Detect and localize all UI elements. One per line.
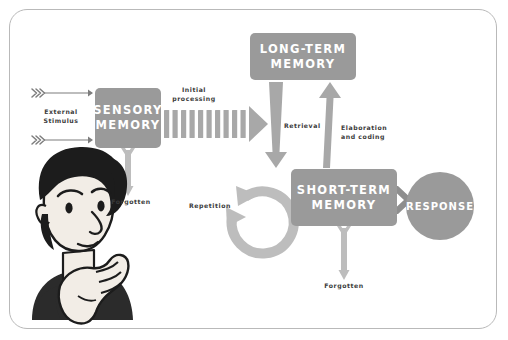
initial-processing-line1: Initial [182,86,206,93]
short-term-memory-label-line2: MEMORY [312,198,377,213]
retrieval-label: Retrieval [284,122,336,131]
forgotten-sensory-label: Forgotten [100,198,162,207]
sensory-memory-label-line2: MEMORY [96,118,161,133]
long-term-memory-box: LONG-TERM MEMORY [250,33,356,80]
external-stimulus-label: External Stimulus [30,108,92,126]
sensory-memory-label-line1: SENSORY [93,103,162,118]
elaboration-line1: Elaboration [341,124,387,131]
response-node: RESPONSE [406,172,474,240]
response-label: RESPONSE [406,201,474,212]
long-term-memory-label-line2: MEMORY [271,57,336,72]
elaboration-line2: and coding [341,133,385,140]
external-stimulus-line2: Stimulus [44,117,79,124]
short-term-memory-box: SHORT-TERM MEMORY [291,169,397,226]
initial-processing-line2: processing [172,95,215,102]
initial-processing-label: Initial processing [163,86,225,104]
diagram-canvas: SENSORY MEMORY LONG-TERM MEMORY SHORT-TE… [0,0,508,340]
repetition-label: Repetition [182,202,238,211]
long-term-memory-label-line1: LONG-TERM [260,42,347,57]
short-term-memory-label-line1: SHORT-TERM [297,183,391,198]
external-stimulus-line1: External [44,108,78,115]
elaboration-and-coding-label: Elaboration and coding [341,124,403,142]
forgotten-shortterm-label: Forgotten [313,282,375,291]
sensory-memory-box: SENSORY MEMORY [95,88,161,148]
